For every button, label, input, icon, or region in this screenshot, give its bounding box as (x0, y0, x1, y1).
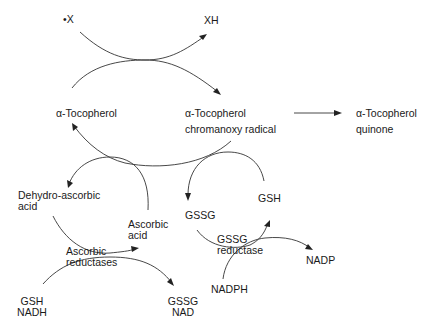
x-radical-label: •X (63, 14, 74, 25)
arrowhead-gsh (264, 220, 270, 227)
gsh-to-gssg-arrow (188, 152, 264, 195)
x-to-xh-arrow (80, 32, 205, 60)
gssg-label: GSSG (185, 210, 215, 221)
gsh-label: GSH (258, 193, 281, 204)
quinone-label-line1: α-Tocopherol (356, 108, 417, 119)
tocopherol-regeneration-diagram: •X XH α-Tocopherol α-Tocopherol chromano… (0, 0, 431, 333)
dehydroascorbic-label-line2: acid (18, 201, 37, 212)
ascorbic-reductases-label-line2: reductases (66, 257, 117, 268)
tocopherol-to-radical-arrow (72, 60, 218, 92)
gssg-reductase-label-line2: reductase (217, 245, 263, 256)
radical-label-line2: chromanoxy radical (185, 124, 276, 135)
ascorbic-acid-label-line2: acid (128, 230, 147, 241)
arrowhead-ascorbic (131, 246, 139, 252)
xh-label: XH (204, 15, 219, 26)
arrowhead-gssg (185, 193, 191, 201)
nadp-label: NADP (306, 255, 335, 266)
arrowhead-gssg-nad (167, 278, 174, 286)
gssg-nad-label-line2: NAD (167, 307, 199, 318)
nadph-label: NADPH (211, 284, 248, 295)
radical-label-line1: α-Tocopherol (185, 108, 246, 119)
quinone-label-line2: quinone (356, 124, 393, 135)
gsh-nadh-label-line2: NADH (16, 307, 48, 318)
arrowhead-quinone (334, 110, 342, 116)
tocopherol-label: α-Tocopherol (56, 108, 117, 119)
